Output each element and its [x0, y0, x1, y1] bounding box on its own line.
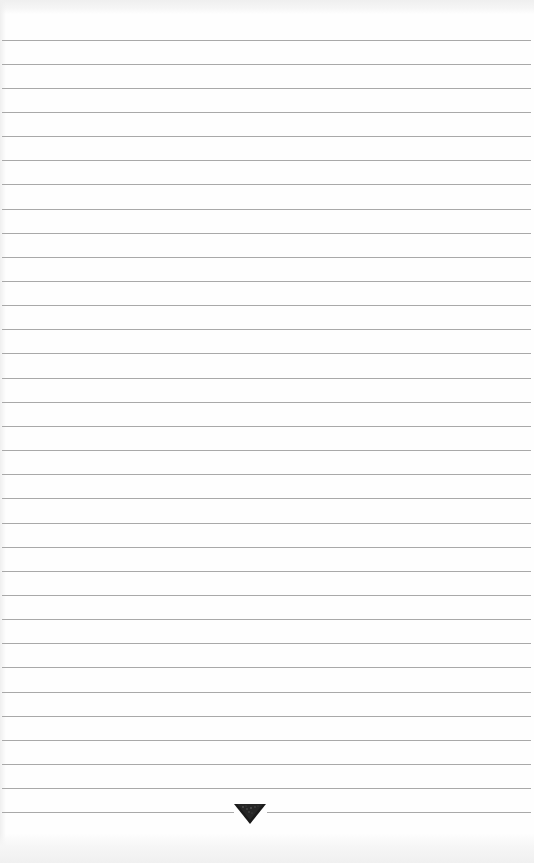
- ruled-line: [2, 88, 531, 89]
- ruled-line: [2, 209, 531, 210]
- ruled-line: [2, 184, 531, 185]
- inverted-triangle-ornament-icon: [234, 803, 266, 824]
- ruled-line: [2, 378, 531, 379]
- ruled-line: [2, 426, 531, 427]
- ruled-line: [2, 112, 531, 113]
- ruled-lines: [0, 0, 534, 863]
- ruled-line: [2, 643, 531, 644]
- ruled-line: [2, 450, 531, 451]
- ruled-line: [2, 402, 531, 403]
- ruled-line: [2, 547, 531, 548]
- ruled-line: [2, 571, 531, 572]
- ruled-line: [2, 64, 531, 65]
- ruled-line: [2, 619, 531, 620]
- ruled-line: [2, 764, 531, 765]
- ruled-line: [2, 353, 531, 354]
- ruled-line: [267, 812, 531, 813]
- notebook-page: [0, 0, 534, 863]
- ruled-line: [2, 716, 531, 717]
- ruled-line: [2, 136, 531, 137]
- ruled-line: [2, 233, 531, 234]
- ruled-line: [2, 474, 531, 475]
- ruled-line: [2, 667, 531, 668]
- ruled-line: [2, 740, 531, 741]
- ruled-line: [2, 160, 531, 161]
- ruled-line: [2, 281, 531, 282]
- ruled-line: [2, 812, 234, 813]
- ruled-line: [2, 788, 531, 789]
- ruled-line: [2, 595, 531, 596]
- ruled-line: [2, 40, 531, 41]
- ruled-line: [2, 523, 531, 524]
- ruled-line: [2, 329, 531, 330]
- ruled-line: [2, 498, 531, 499]
- ruled-line: [2, 257, 531, 258]
- ruled-line: [2, 692, 531, 693]
- ruled-line: [2, 305, 531, 306]
